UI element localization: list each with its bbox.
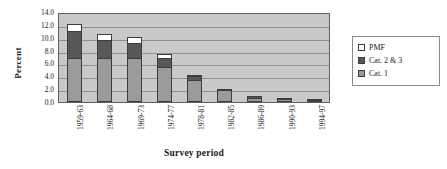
bar-segment[interactable] — [157, 58, 172, 67]
bar-slot — [299, 14, 329, 102]
x-axis-title: Survey period — [58, 148, 330, 158]
bar-stack[interactable] — [157, 54, 172, 102]
bar-stack[interactable] — [247, 96, 262, 102]
bar-stack[interactable] — [67, 24, 82, 102]
y-axis-tick-label: 4.0 — [45, 74, 54, 82]
bar-segment[interactable] — [187, 80, 202, 103]
x-axis-tick-label: 1982-85 — [228, 105, 236, 130]
bar-slot — [209, 14, 239, 102]
x-tick-slot: 1986-89 — [239, 105, 269, 145]
bar-slot — [269, 14, 299, 102]
bar-slot — [179, 14, 209, 102]
bar-segment[interactable] — [67, 31, 82, 58]
x-tick-slot: 1959-63 — [58, 105, 88, 145]
legend-label: PMF — [369, 44, 385, 52]
x-axis-tick-labels: 1959-631964-681969-731974-771978-811982-… — [58, 105, 330, 145]
y-axis-tick-label: 0.0 — [45, 99, 54, 107]
bar-slot — [119, 14, 149, 102]
legend-swatch — [358, 70, 365, 77]
bar-segment[interactable] — [277, 99, 292, 102]
x-axis-tick-label: 1990-93 — [289, 105, 297, 130]
y-axis-tick-label: 6.0 — [45, 61, 54, 69]
x-axis-tick-label: 1959-63 — [77, 105, 85, 130]
legend-item[interactable]: PMF — [358, 41, 434, 54]
bar-segment[interactable] — [97, 40, 112, 58]
y-axis-tick-label: 10.0 — [41, 35, 54, 43]
bar-segment[interactable] — [97, 58, 112, 102]
x-axis-tick-label: 1978-81 — [198, 105, 206, 130]
y-axis-title: Percent — [9, 33, 27, 93]
x-tick-slot: 1978-81 — [179, 105, 209, 145]
x-axis-tick-label: 1986-89 — [258, 105, 266, 130]
bar-segment[interactable] — [307, 100, 322, 102]
bar-stack[interactable] — [97, 34, 112, 102]
x-tick-slot: 1969-73 — [118, 105, 148, 145]
legend-item[interactable]: Cat. 1 — [358, 67, 434, 80]
x-axis-tick-label: 1974-77 — [168, 105, 176, 130]
bar-segment[interactable] — [127, 43, 142, 58]
bar-segment[interactable] — [247, 98, 262, 103]
bar-segment[interactable] — [217, 90, 232, 102]
x-axis-tick-label: 1964-68 — [107, 105, 115, 130]
bar-series-group — [59, 14, 329, 102]
legend-label: Cat. 1 — [369, 70, 388, 78]
bar-slot — [89, 14, 119, 102]
y-axis-tick-label: 12.0 — [41, 22, 54, 30]
bar-slot — [59, 14, 89, 102]
bar-segment[interactable] — [157, 67, 172, 102]
x-tick-slot: 1974-77 — [149, 105, 179, 145]
bar-stack[interactable] — [127, 37, 142, 102]
legend-swatch — [358, 44, 365, 51]
y-axis-tick-label: 8.0 — [45, 48, 54, 56]
x-tick-slot: 1990-93 — [270, 105, 300, 145]
bar-segment[interactable] — [67, 58, 82, 102]
x-tick-slot: 1964-68 — [88, 105, 118, 145]
legend-label: Cat. 2 & 3 — [369, 57, 402, 65]
y-axis-tick-label: 14.0 — [41, 9, 54, 17]
bar-stack[interactable] — [277, 98, 292, 102]
chart-legend: PMFCat. 2 & 3Cat. 1 — [352, 36, 440, 86]
legend-item[interactable]: Cat. 2 & 3 — [358, 54, 434, 67]
bar-stack[interactable] — [187, 75, 202, 102]
x-tick-slot: 1994-97 — [300, 105, 330, 145]
y-axis-tick-label: 2.0 — [45, 86, 54, 94]
bar-stack[interactable] — [217, 89, 232, 102]
bar-segment[interactable] — [127, 58, 142, 102]
legend-swatch — [358, 57, 365, 64]
bar-slot — [149, 14, 179, 102]
bar-slot — [239, 14, 269, 102]
chart-figure: Percent 14.012.010.08.06.04.02.00.0 1959… — [0, 0, 447, 169]
y-axis-tick-labels: 14.012.010.08.06.04.02.00.0 — [26, 13, 56, 103]
plot-area — [58, 13, 330, 103]
x-axis-tick-label: 1969-73 — [138, 105, 146, 130]
bar-stack[interactable] — [307, 99, 322, 103]
x-tick-slot: 1982-85 — [209, 105, 239, 145]
y-axis-title-text: Percent — [13, 47, 23, 78]
x-axis-tick-label: 1994-97 — [319, 105, 327, 130]
